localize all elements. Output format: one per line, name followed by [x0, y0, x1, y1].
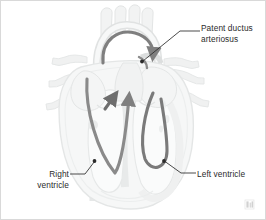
label-right-ventricle: Right ventricle: [7, 169, 69, 190]
leader-dot-left-ventricle: [162, 159, 166, 163]
leader-dot-pda: [140, 60, 144, 64]
heart-diagram-figure: Patent ductus arteriosus Right ventricle…: [0, 0, 266, 220]
leader-dot-right-ventricle: [93, 159, 97, 163]
label-patent-ductus-arteriosus: Patent ductus arteriosus: [201, 23, 265, 44]
label-left-ventricle: Left ventricle: [197, 169, 265, 180]
pulmonary-trunk: [115, 63, 143, 101]
corner-watermark: [245, 200, 254, 209]
